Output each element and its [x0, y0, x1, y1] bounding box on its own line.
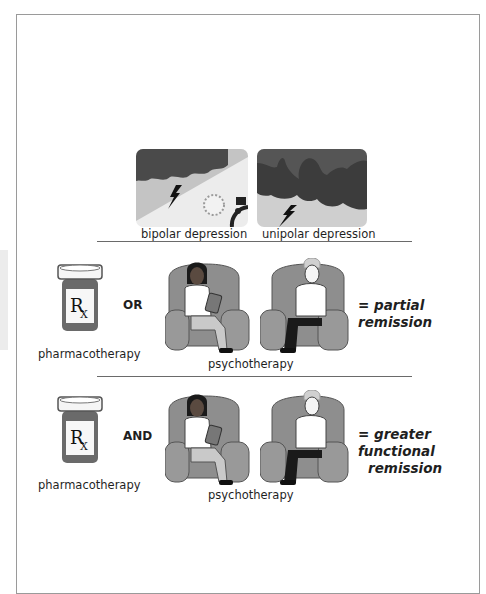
background-side-panel	[0, 250, 8, 350]
therapist-icon	[165, 390, 250, 488]
operator-and: AND	[123, 429, 152, 443]
psychotherapy-label-1: psychotherapy	[208, 357, 294, 371]
unipolar-depression-label: unipolar depression	[262, 227, 375, 241]
bipolar-depression-label: bipolar depression	[141, 227, 247, 241]
pill-bottle-1: R X	[55, 263, 105, 333]
psychotherapy-label-2: psychotherapy	[208, 488, 294, 502]
svg-text:X: X	[80, 308, 88, 321]
result-partial-remission: = partial remission	[358, 297, 486, 331]
pill-bottle-icon: R X	[55, 263, 105, 333]
result-line: = greater functional	[358, 426, 486, 460]
pharmacotherapy-label-1: pharmacotherapy	[38, 347, 141, 361]
pill-bottle-icon: R X	[55, 395, 105, 465]
result-greater-functional-remission: = greater functional remission	[358, 426, 486, 477]
divider-middle	[97, 376, 412, 377]
pill-bottle-2: R X	[55, 395, 105, 465]
patient-in-chair-1	[260, 258, 350, 356]
pharmacotherapy-label-2: pharmacotherapy	[38, 478, 141, 492]
therapist-icon	[165, 258, 250, 356]
svg-text:X: X	[80, 440, 88, 453]
operator-or: OR	[123, 298, 142, 312]
result-line: remission	[358, 460, 486, 477]
result-line: = partial remission	[358, 297, 486, 331]
patient-icon	[260, 390, 350, 488]
patient-in-chair-2	[260, 390, 350, 488]
unipolar-depression-panel	[257, 149, 367, 227]
divider-top	[97, 241, 412, 242]
therapist-in-chair-1	[165, 258, 250, 356]
patient-icon	[260, 258, 350, 356]
storm-and-sun-icon	[136, 149, 248, 227]
bipolar-depression-panel	[136, 149, 248, 227]
storm-cloud-icon	[257, 149, 367, 227]
therapist-in-chair-2	[165, 390, 250, 488]
